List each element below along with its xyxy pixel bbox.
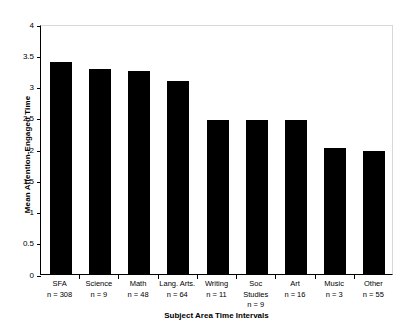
x-axis-category-label: Mathn = 48 — [118, 279, 157, 300]
category-sample-size: n = 16 — [275, 290, 314, 301]
y-tick-label: 4 — [30, 21, 34, 30]
category-name: Math — [118, 279, 157, 290]
category-sample-size: n = 9 — [79, 290, 118, 301]
bar — [207, 120, 229, 274]
y-tick-label: 3.5 — [23, 52, 34, 61]
category-sample-size: n = 55 — [354, 290, 393, 301]
bar — [128, 71, 150, 274]
x-axis-category-label: Writingn = 11 — [197, 279, 236, 300]
x-axis-title: Subject Area Time Intervals — [40, 311, 393, 320]
bar — [167, 81, 189, 274]
y-tick-label: 1 — [30, 208, 34, 217]
y-tick-label: 3 — [30, 83, 34, 92]
x-axis-category-label: SFAn = 308 — [40, 279, 79, 300]
category-name: Writing — [197, 279, 236, 290]
bar — [285, 120, 307, 274]
x-axis-category-label: Sciencen = 9 — [79, 279, 118, 300]
bar — [89, 69, 111, 274]
category-name: Soc — [236, 279, 275, 290]
bar — [50, 62, 72, 274]
bar — [246, 120, 268, 274]
category-sample-size: n = 48 — [118, 290, 157, 301]
category-name: Studies — [236, 290, 275, 301]
category-name: Lang. Arts. — [158, 279, 197, 290]
bars-group — [41, 26, 392, 274]
category-sample-size: n = 11 — [197, 290, 236, 301]
bar — [324, 148, 346, 274]
category-sample-size: n = 64 — [158, 290, 197, 301]
y-tick-label: 2 — [30, 146, 34, 155]
x-axis-category-label: Othern = 55 — [354, 279, 393, 300]
x-axis-category-label: Artn = 16 — [275, 279, 314, 300]
category-name: Science — [79, 279, 118, 290]
x-axis-category-label: Musicn = 3 — [315, 279, 354, 300]
y-tick-label: 0 — [30, 271, 34, 280]
x-axis-category-label: SocStudiesn = 9 — [236, 279, 275, 311]
y-tick-label: 2.5 — [23, 114, 34, 123]
category-sample-size: n = 9 — [236, 300, 275, 311]
category-name: Other — [354, 279, 393, 290]
y-tick-label: 1.5 — [23, 177, 34, 186]
category-name: SFA — [40, 279, 79, 290]
category-name: Art — [275, 279, 314, 290]
category-sample-size: n = 308 — [40, 290, 79, 301]
bar — [363, 151, 385, 274]
category-sample-size: n = 3 — [315, 290, 354, 301]
category-name: Music — [315, 279, 354, 290]
bar-chart: Mean Attention-Engaged Time 00.511.522.5… — [0, 0, 412, 324]
y-tick-label: 0.5 — [23, 239, 34, 248]
plot-area: 00.511.522.533.54 — [40, 25, 393, 275]
x-axis-category-label: Lang. Arts.n = 64 — [158, 279, 197, 300]
